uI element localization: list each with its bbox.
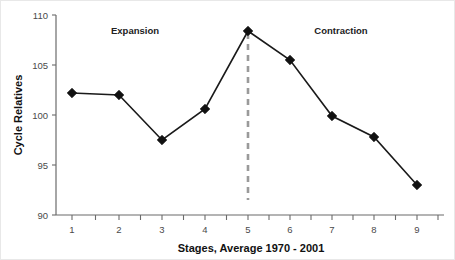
y-tick-label-90: 90 [37,210,48,221]
x-tick-label-3: 3 [159,224,164,235]
x-tick-label-9: 9 [414,224,419,235]
y-axis-tick-labels: 110 105 100 95 90 [32,10,48,221]
x-axis-ticks [72,215,438,220]
x-tick-label-2: 2 [116,224,121,235]
expansion-label: Expansion [111,25,159,36]
data-point-5 [243,26,253,36]
y-tick-label-100: 100 [32,110,48,121]
x-tick-label-6: 6 [287,224,292,235]
y-axis-title: Cycle Relatives [12,75,24,156]
cycle-relatives-line-chart: 110 105 100 95 90 [1,1,455,260]
x-tick-label-7: 7 [329,224,334,235]
x-tick-label-4: 4 [202,224,207,235]
y-tick-label-95: 95 [37,160,48,171]
data-point-1 [67,88,77,98]
x-tick-label-1: 1 [69,224,74,235]
x-tick-label-8: 8 [371,224,376,235]
chart-page: 110 105 100 95 90 [0,0,455,260]
series-markers [67,26,422,190]
x-tick-label-5: 5 [245,224,250,235]
y-tick-label-105: 105 [32,60,48,71]
x-axis-title: Stages, Average 1970 - 2001 [178,242,325,254]
contraction-label: Contraction [314,25,368,36]
y-tick-label-110: 110 [33,10,48,21]
x-axis-tick-labels: 1 2 3 4 5 6 7 8 9 [69,224,419,235]
cycle-relatives-series-line [72,31,417,185]
